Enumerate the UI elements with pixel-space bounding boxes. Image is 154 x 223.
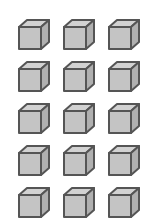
cube-icon: [17, 143, 51, 177]
cube-icon: [107, 101, 141, 135]
cube-icon: [107, 17, 141, 51]
cube-icon: [62, 59, 96, 93]
cube-icon: [62, 17, 96, 51]
cube-icon: [107, 143, 141, 177]
cube-icon: [62, 185, 96, 219]
cube-icon: [17, 59, 51, 93]
cube-icon: [62, 143, 96, 177]
cube-icon: [17, 185, 51, 219]
cube-icon: [17, 17, 51, 51]
cube-icon: [107, 59, 141, 93]
cube-icon: [17, 101, 51, 135]
cube-icon: [62, 101, 96, 135]
cube-icon: [107, 185, 141, 219]
